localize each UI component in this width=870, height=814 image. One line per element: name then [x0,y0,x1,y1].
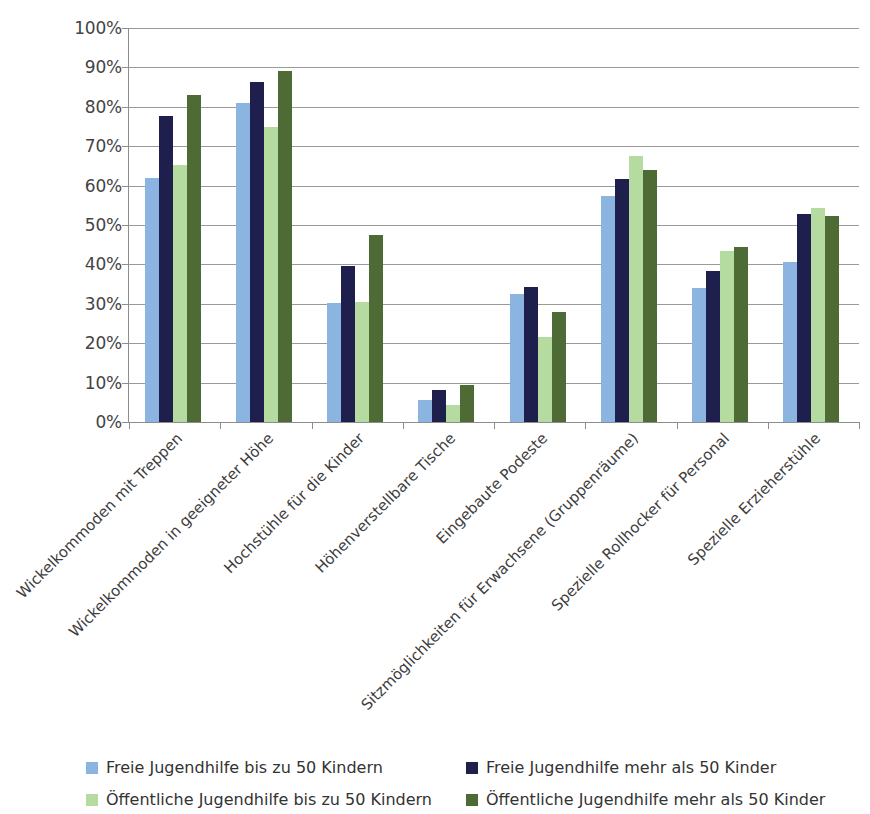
grouped-bar-chart: 0%10%20%30%40%50%60%70%80%90%100% Wickel… [0,0,870,814]
x-tick-mark [677,422,678,429]
bars-layer [129,28,859,422]
y-tick-label: 20% [6,335,122,352]
bar [692,288,706,422]
y-tick-label: 0% [6,414,122,431]
bar [159,116,173,422]
bar [524,287,538,422]
x-tick-mark [129,422,130,429]
x-tick-mark [585,422,586,429]
y-tick-label: 70% [6,138,122,155]
y-tick-mark [122,67,129,68]
legend-item[interactable]: Freie Jugendhilfe mehr als 50 Kinder [466,759,856,777]
plot-wrapper: 0%10%20%30%40%50%60%70%80%90%100% [0,0,870,440]
legend-swatch-icon [466,762,478,774]
bar [552,312,566,422]
bar [264,127,278,422]
plot-area [128,28,859,423]
y-tick-mark [122,28,129,29]
bar [720,251,734,422]
bar [734,247,748,422]
y-tick-mark [122,225,129,226]
legend-item[interactable]: Freie Jugendhilfe bis zu 50 Kindern [86,759,466,777]
y-tick-label: 60% [6,178,122,195]
y-tick-mark [122,343,129,344]
y-tick-label: 30% [6,296,122,313]
x-tick-mark [403,422,404,429]
y-tick-label: 40% [6,256,122,273]
bar [250,82,264,422]
bar [341,266,355,422]
x-tick-mark [312,422,313,429]
legend-item-label: Öffentliche Jugendhilfe bis zu 50 Kinder… [106,791,432,809]
x-tick-mark [220,422,221,429]
bar [783,262,797,422]
y-axis-tick-labels: 0%10%20%30%40%50%60%70%80%90%100% [0,0,122,440]
bar [615,179,629,422]
legend-swatch-icon [86,794,98,806]
bar [432,390,446,422]
bar [643,170,657,422]
x-tick-mark [494,422,495,429]
bar [355,302,369,422]
bar [811,208,825,422]
bar [446,405,460,422]
bar [825,216,839,422]
y-tick-label: 100% [6,20,122,37]
bar [460,385,474,422]
x-axis-category-labels: Wickelkommoden mit TreppenWickelkommoden… [0,430,870,730]
bar [173,165,187,422]
legend-item[interactable]: Öffentliche Jugendhilfe bis zu 50 Kinder… [86,791,466,809]
bar [418,400,432,422]
bar [278,71,292,422]
x-tick-mark [859,422,860,429]
bar [706,271,720,422]
legend-item-label: Freie Jugendhilfe bis zu 50 Kindern [106,759,383,777]
bar [601,196,615,422]
legend-item-label: Öffentliche Jugendhilfe mehr als 50 Kind… [486,791,825,809]
y-tick-label: 80% [6,99,122,116]
bar [510,294,524,422]
legend-item-label: Freie Jugendhilfe mehr als 50 Kinder [486,759,776,777]
y-tick-mark [122,383,129,384]
y-tick-mark [122,107,129,108]
bar [797,214,811,422]
bar [236,103,250,422]
y-tick-mark [122,186,129,187]
chart-legend: Freie Jugendhilfe bis zu 50 KindernFreie… [86,752,856,814]
legend-swatch-icon [86,762,98,774]
bar [327,303,341,422]
y-tick-mark [122,422,129,423]
y-tick-label: 50% [6,217,122,234]
y-tick-mark [122,304,129,305]
bar [629,156,643,422]
bar [145,178,159,422]
x-tick-mark [768,422,769,429]
y-tick-mark [122,146,129,147]
y-tick-label: 90% [6,59,122,76]
bar [538,337,552,422]
bar [187,95,201,422]
y-tick-label: 10% [6,375,122,392]
legend-item[interactable]: Öffentliche Jugendhilfe mehr als 50 Kind… [466,791,856,809]
y-tick-mark [122,264,129,265]
bar [369,235,383,422]
legend-swatch-icon [466,794,478,806]
